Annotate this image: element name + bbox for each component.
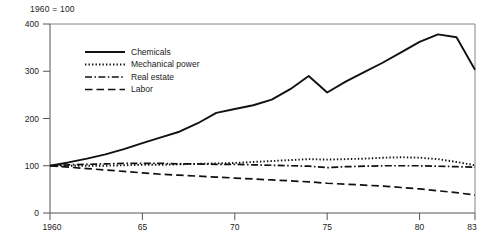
x-tick-label-65: 65: [138, 222, 148, 232]
legend-label-labor: Labor: [131, 84, 153, 94]
chart-legend: ChemicalsMechanical powerReal estateLabo…: [85, 47, 200, 95]
chart-plot-area: 400 300 200 100 0 1960 65 70 75 80 83 Ch…: [0, 0, 482, 247]
x-axis: 1960 65 70 75 80 83: [43, 213, 477, 232]
legend-label-chemicals: Chemicals: [131, 47, 171, 57]
legend-label-real-estate: Real estate: [131, 72, 174, 82]
x-tick-label-83: 83: [467, 222, 477, 232]
series-lines: [50, 34, 475, 195]
x-tick-label-80: 80: [415, 222, 425, 232]
y-tick-label-300: 300: [25, 66, 39, 76]
series-line-labor: [50, 166, 475, 195]
y-tick-label-0: 0: [34, 208, 39, 218]
x-tick-label-70: 70: [230, 222, 240, 232]
legend-label-mechanical-power: Mechanical power: [131, 59, 200, 69]
chart-figure: 1960 = 100 400 300 200 100 0: [0, 0, 482, 247]
y-axis: 400 300 200 100 0: [25, 19, 50, 218]
y-tick-label-200: 200: [25, 114, 39, 124]
y-tick-label-400: 400: [25, 19, 39, 29]
x-tick-label-1960: 1960: [43, 222, 62, 232]
y-tick-label-100: 100: [25, 161, 39, 171]
series-line-chemicals: [50, 34, 475, 165]
x-tick-label-75: 75: [322, 222, 332, 232]
